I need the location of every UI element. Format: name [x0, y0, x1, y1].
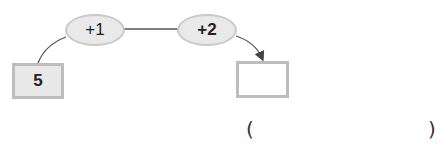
- step-label: +2: [197, 20, 216, 40]
- open-bracket: (: [246, 117, 254, 141]
- start-value: 5: [33, 71, 42, 91]
- step-oval-plus-2: +2: [177, 14, 237, 46]
- step-oval-plus-1: +1: [65, 14, 125, 46]
- answer-box[interactable]: [236, 61, 289, 98]
- start-value-box: 5: [12, 63, 64, 99]
- close-bracket: ): [428, 117, 436, 141]
- step-label: +1: [85, 20, 104, 40]
- answer-blank[interactable]: [258, 118, 418, 140]
